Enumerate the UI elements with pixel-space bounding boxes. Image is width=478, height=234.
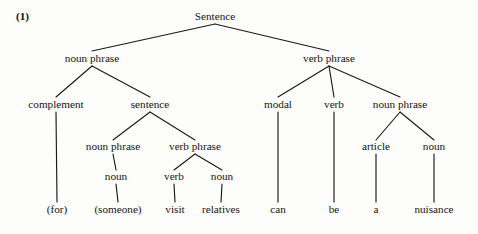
leaf-word-w_someone: (someone) bbox=[94, 203, 141, 216]
leaf-word-w_a: a bbox=[374, 203, 379, 215]
tree-edge bbox=[56, 66, 92, 97]
tree-node-noun1: noun bbox=[105, 170, 128, 182]
leaf-word-w_relatives: relatives bbox=[202, 203, 240, 215]
tree-node-verb2: verb bbox=[164, 170, 184, 182]
leaf-word-w_can: can bbox=[270, 203, 286, 215]
tree-edge bbox=[329, 66, 400, 97]
example-number-label: (1) bbox=[16, 10, 29, 23]
tree-node-s: Sentence bbox=[195, 10, 235, 22]
tree-edge bbox=[278, 66, 329, 97]
tree-node-np2: noun phrase bbox=[373, 98, 427, 110]
tree-edge bbox=[56, 112, 57, 202]
syntax-tree-canvas: Sentencenoun phraseverb phrasecomplement… bbox=[0, 0, 478, 234]
tree-node-np1: noun phrase bbox=[65, 52, 119, 64]
tree-edge bbox=[376, 112, 400, 140]
tree-edge bbox=[92, 24, 215, 51]
tree-edge bbox=[215, 24, 329, 51]
tree-node-vp1: verb phrase bbox=[303, 52, 355, 64]
tree-edge bbox=[195, 154, 222, 170]
tree-node-noun2: noun bbox=[211, 170, 234, 182]
tree-edge bbox=[92, 66, 150, 97]
tree-edge bbox=[400, 112, 434, 140]
tree-node-noun3: noun bbox=[423, 140, 446, 152]
tree-node-np3: noun phrase bbox=[86, 140, 140, 152]
tree-node-modal: modal bbox=[264, 98, 292, 110]
tree-edge bbox=[174, 154, 195, 170]
leaf-word-w_be: be bbox=[329, 203, 340, 215]
leaf-word-w_visit: visit bbox=[165, 203, 185, 215]
tree-edge bbox=[150, 112, 195, 140]
tree-edge bbox=[116, 184, 118, 202]
tree-nodes: Sentencenoun phraseverb phrasecomplement… bbox=[28, 10, 453, 216]
tree-node-vp2: verb phrase bbox=[169, 140, 221, 152]
tree-edge bbox=[221, 184, 222, 202]
tree-edge bbox=[113, 154, 116, 170]
tree-edge bbox=[329, 66, 334, 97]
tree-node-comp: complement bbox=[28, 98, 84, 110]
tree-node-article: article bbox=[362, 140, 390, 152]
leaf-word-w_nuisance: nuisance bbox=[414, 203, 453, 215]
tree-edge bbox=[174, 184, 175, 202]
tree-edge bbox=[113, 112, 150, 140]
syntax-tree-figure: Sentencenoun phraseverb phrasecomplement… bbox=[0, 0, 478, 234]
tree-node-s2: sentence bbox=[131, 98, 170, 110]
leaf-word-w_for: (for) bbox=[47, 203, 68, 216]
tree-node-verb1: verb bbox=[324, 98, 344, 110]
